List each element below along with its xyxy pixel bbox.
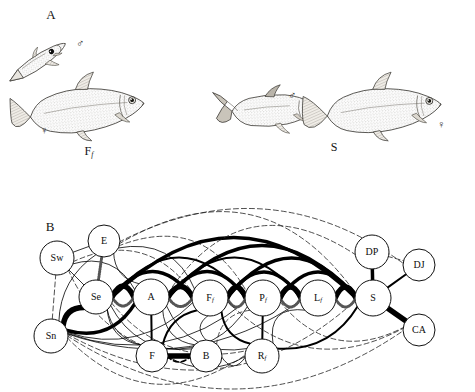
node-label: CA — [412, 324, 427, 335]
network-edge — [200, 315, 209, 341]
network-edge — [221, 311, 251, 344]
network-node-Sw[interactable]: Sw — [40, 241, 74, 275]
node-label: Sn — [46, 330, 57, 341]
network-node-Rf[interactable]: Rf — [245, 339, 279, 373]
network-node-F[interactable]: F — [136, 340, 168, 372]
male-symbol-left: ♂ — [76, 37, 84, 49]
node-label: A — [147, 291, 155, 302]
node-label: Se — [91, 291, 102, 302]
network-node-Lf[interactable]: Lf — [300, 280, 336, 316]
node-label: S — [370, 292, 376, 303]
network-edge — [227, 298, 246, 307]
node-label: Sw — [51, 252, 65, 263]
fish-caption-s: S — [331, 140, 338, 154]
fish-female-s — [299, 67, 444, 149]
node-label: F — [149, 350, 155, 361]
network-node-DP[interactable]: DP — [355, 235, 389, 269]
male-symbol-right: ♂ — [288, 89, 296, 101]
panel-b-network: SwESeSnAFBFfPfRfLfSDPDJCA B — [34, 208, 435, 389]
network-nodes: SwESeSnAFBFfPfRfLfSDPDJCA — [34, 225, 435, 373]
network-edge — [335, 298, 356, 307]
panel-a-letter: A — [46, 7, 56, 22]
network-node-Sn[interactable]: Sn — [34, 319, 68, 353]
node-label: E — [101, 235, 107, 246]
figure-canvas: AFfS♂♀♂♀ SwESeSnAFBFfPfRfLfSDPDJCA B — [0, 0, 475, 392]
network-edge — [52, 274, 56, 320]
network-edge — [63, 307, 84, 325]
network-edge — [112, 297, 134, 306]
network-edge — [387, 256, 404, 261]
panel-b-letter: B — [46, 219, 55, 234]
fish-female-ff — [7, 66, 148, 150]
network-node-Se[interactable]: Se — [79, 280, 113, 314]
network-node-E[interactable]: E — [88, 225, 120, 257]
fish-male-a — [3, 33, 73, 93]
network-edge — [114, 253, 141, 285]
network-node-Pf[interactable]: Pf — [245, 280, 281, 316]
network-edge — [168, 297, 193, 306]
female-symbol-right: ♀ — [437, 118, 445, 130]
network-node-B[interactable]: B — [190, 340, 222, 372]
node-label: B — [203, 350, 210, 361]
network-node-DJ[interactable]: DJ — [403, 249, 435, 281]
female-symbol-left: ♀ — [40, 124, 48, 136]
network-edge — [98, 256, 102, 281]
network-node-Ff[interactable]: Ff — [192, 280, 228, 316]
network-edge — [387, 308, 407, 322]
fish-caption-ff: Ff — [85, 144, 95, 159]
network-node-CA[interactable]: CA — [403, 314, 435, 346]
network-edge — [335, 287, 356, 298]
panel-a-illustrations — [3, 33, 444, 150]
network-edge — [272, 310, 306, 345]
network-edge — [72, 246, 90, 253]
network-node-A[interactable]: A — [133, 279, 169, 315]
network-edge — [387, 274, 407, 288]
network-node-S[interactable]: S — [355, 280, 391, 316]
node-label: DP — [366, 246, 379, 257]
node-label: DJ — [413, 259, 424, 270]
